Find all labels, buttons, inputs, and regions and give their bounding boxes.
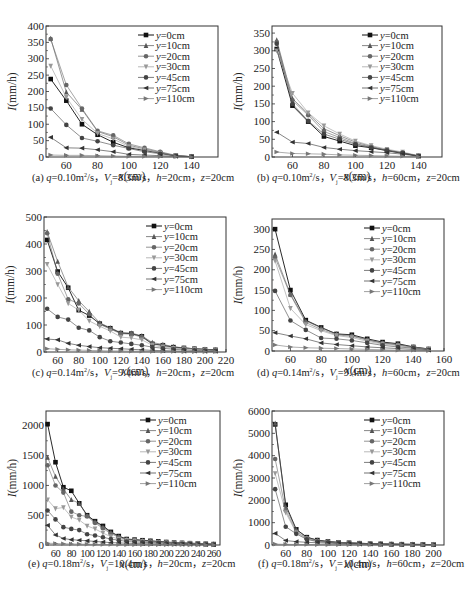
legend-label: y=110cm xyxy=(381,478,421,489)
data-point xyxy=(294,532,299,537)
legend-marker xyxy=(370,439,375,444)
data-point xyxy=(283,510,288,515)
legend-item: y=110cm xyxy=(364,478,421,489)
caption-z: 20 xyxy=(441,558,452,569)
legend-label: y=75cm xyxy=(381,468,416,479)
y-tick-label: 4000 xyxy=(248,449,271,461)
y-tick-label: 2000 xyxy=(248,494,271,506)
legend-item: y=20cm xyxy=(364,436,416,447)
legend-label: y=45cm xyxy=(381,457,416,468)
caption-vj: 10.4 xyxy=(343,558,361,569)
chart-f: 0100020003000400050006000608010012014016… xyxy=(0,0,473,594)
caption-q: 0.18 xyxy=(282,558,300,569)
legend-marker xyxy=(369,471,374,476)
series-y-45cm xyxy=(273,487,436,547)
y-tick-label: 0 xyxy=(265,539,271,551)
y-tick-label: 3000 xyxy=(248,472,271,484)
data-point xyxy=(273,542,278,547)
data-point xyxy=(273,457,278,462)
legend-item: y=75cm xyxy=(364,468,416,479)
y-axis-ticks: 0100020003000400050006000 xyxy=(248,405,275,551)
legend-marker xyxy=(370,460,375,465)
legend-item: y=30cm xyxy=(364,446,416,457)
legend-marker xyxy=(370,418,375,423)
legend-label: y=10cm xyxy=(381,425,416,436)
legend-label: y=0cm xyxy=(381,415,411,426)
data-point xyxy=(272,531,277,536)
y-axis-label: I(mm/h) xyxy=(232,459,245,499)
y-tick-label: 1000 xyxy=(248,516,271,528)
caption-label: (f) xyxy=(258,558,269,569)
chart-caption-f: (f) q=0.18m2/s，Vj=10.4m/s，h=60cm，z=20cm xyxy=(258,555,464,570)
y-tick-label: 5000 xyxy=(248,427,271,439)
y-tick-label: 6000 xyxy=(248,405,271,417)
legend-item: y=0cm xyxy=(364,415,411,426)
data-point xyxy=(283,524,288,529)
data-point xyxy=(273,487,278,492)
caption-h: 60 xyxy=(398,558,409,569)
data-point xyxy=(273,471,278,476)
legend: y=0cmy=10cmy=20cmy=30cmy=45cmy=75cmy=110… xyxy=(364,415,421,490)
legend-marker xyxy=(370,481,375,486)
legend-label: y=30cm xyxy=(381,446,416,457)
legend-label: y=20cm xyxy=(381,436,416,447)
legend-item: y=10cm xyxy=(364,425,416,436)
legend-item: y=45cm xyxy=(364,457,416,468)
